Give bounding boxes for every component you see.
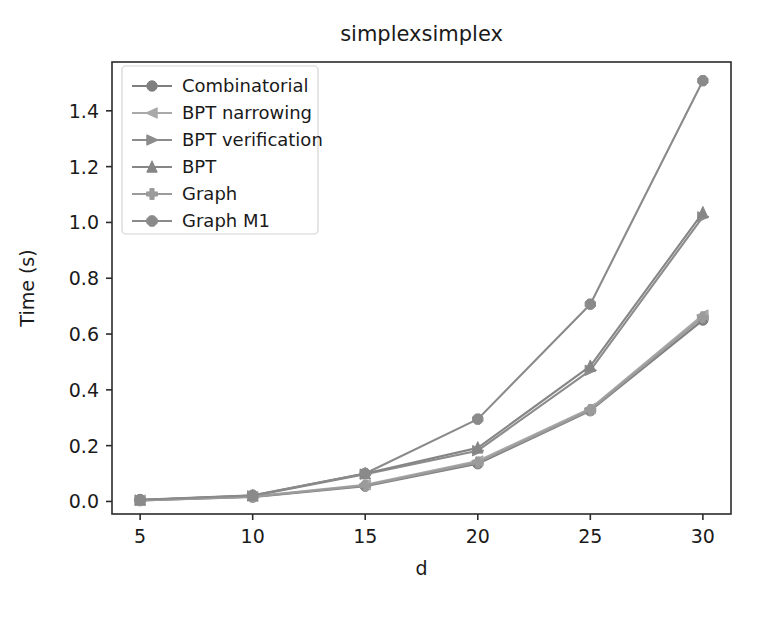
legend-label-graph-m1: Graph M1	[182, 210, 270, 231]
x-tick-label: 10	[241, 525, 265, 547]
y-tick-label: 1.2	[69, 156, 99, 178]
y-tick-label: 1.4	[69, 100, 99, 122]
page-title: simplexsimplex	[340, 22, 503, 46]
x-tick-label: 25	[578, 525, 602, 547]
x-axis-label: d	[415, 557, 427, 579]
data-point-marker	[247, 490, 257, 500]
x-tick-label: 20	[466, 525, 490, 547]
data-point-marker	[135, 495, 145, 505]
x-tick-label: 5	[134, 525, 146, 547]
series-line-bpt-narrowing	[140, 315, 703, 500]
x-tick-label: 30	[691, 525, 715, 547]
y-tick-label: 0.2	[69, 435, 99, 457]
legend-label-bpt-narrowing: BPT narrowing	[182, 102, 312, 123]
legend-label-bpt: BPT	[182, 156, 217, 177]
y-axis-label: Time (s)	[16, 249, 38, 327]
line-chart: 510152025300.00.20.40.60.81.01.21.4simpl…	[0, 0, 766, 623]
legend-label-graph: Graph	[182, 183, 237, 204]
legend-label-combinatorial: Combinatorial	[182, 75, 308, 96]
data-point-marker	[585, 299, 595, 309]
series-line-bpt	[140, 213, 703, 500]
x-tick-label: 15	[353, 525, 377, 547]
y-tick-label: 0.6	[69, 323, 99, 345]
y-tick-label: 0.8	[69, 267, 99, 289]
data-point-marker	[360, 468, 370, 478]
series-line-bpt-verification	[140, 217, 703, 500]
data-point-marker	[147, 81, 157, 91]
y-tick-label: 0.0	[69, 490, 99, 512]
data-point-marker	[473, 414, 483, 424]
y-tick-label: 0.4	[69, 379, 99, 401]
data-point-marker	[147, 216, 157, 226]
data-point-marker	[698, 76, 708, 86]
y-tick-label: 1.0	[69, 211, 99, 233]
legend-label-bpt-verification: BPT verification	[182, 129, 323, 150]
figure-canvas: 510152025300.00.20.40.60.81.01.21.4simpl…	[0, 0, 766, 623]
